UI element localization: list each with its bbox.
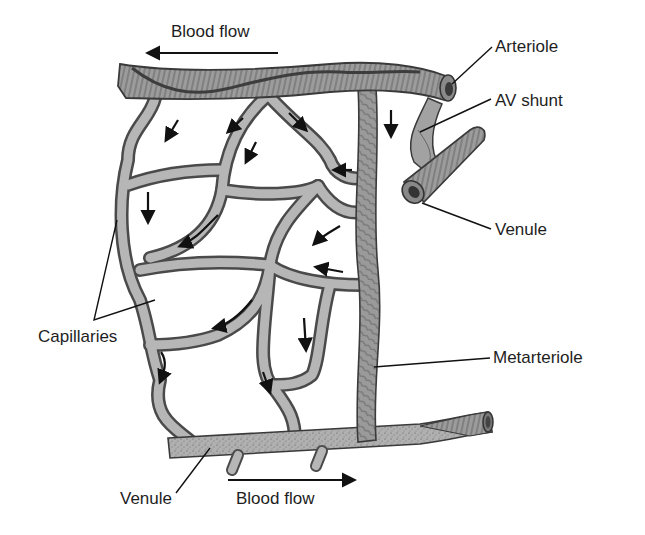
label-arteriole: Arteriole bbox=[495, 38, 558, 55]
metarteriole-vessel bbox=[356, 88, 380, 442]
capillary-network bbox=[122, 95, 362, 445]
label-metarteriole: Metarteriole bbox=[493, 349, 583, 366]
capillary-bed-diagram: Blood flow Arteriole AV shunt Venule Cap… bbox=[0, 0, 645, 535]
label-venule-bottom: Venule bbox=[120, 490, 172, 507]
label-blood-flow-bottom: Blood flow bbox=[236, 490, 314, 507]
label-capillaries: Capillaries bbox=[38, 328, 117, 345]
label-av-shunt: AV shunt bbox=[495, 92, 563, 109]
venule-bottom-vessel bbox=[168, 412, 493, 470]
label-venule-right: Venule bbox=[495, 221, 547, 238]
label-blood-flow-top: Blood flow bbox=[171, 23, 249, 40]
diagram-canvas bbox=[0, 0, 645, 535]
